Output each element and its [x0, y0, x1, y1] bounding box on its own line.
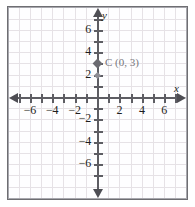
x-axis-tick — [108, 94, 110, 103]
y-axis-tick — [94, 142, 103, 144]
x-axis-tick — [30, 94, 32, 103]
x-tick-label: 6 — [153, 103, 175, 118]
y-axis-line — [97, 10, 99, 196]
point-label-c: C (0, 3) — [105, 56, 139, 68]
x-axis-tick — [75, 94, 77, 103]
x-axis-tick — [63, 94, 65, 103]
y-tick-label: 2 — [67, 67, 91, 82]
y-axis-tick — [94, 108, 103, 110]
y-axis-tick — [94, 153, 103, 155]
x-tick-label: −4 — [41, 103, 63, 118]
y-axis-label: y — [102, 9, 107, 21]
y-tick-label: −4 — [67, 134, 91, 149]
y-axis-tick — [94, 86, 103, 88]
y-tick-label: 6 — [67, 22, 91, 37]
x-axis-tick — [164, 94, 166, 103]
x-axis-tick — [119, 94, 121, 103]
x-tick-label: 2 — [108, 103, 130, 118]
y-axis-tick — [94, 131, 103, 133]
y-tick-label: −6 — [67, 156, 91, 171]
x-axis-arrow-left — [9, 93, 18, 103]
y-tick-label: 4 — [67, 44, 91, 59]
x-tick-label: −6 — [19, 103, 41, 118]
x-axis-tick — [131, 94, 133, 103]
x-axis-tick — [41, 94, 43, 103]
x-axis-tick — [19, 94, 21, 103]
y-axis-tick — [94, 41, 103, 43]
x-tick-label: 4 — [131, 103, 153, 118]
x-axis-tick — [52, 94, 54, 103]
y-axis-tick — [94, 30, 103, 32]
x-axis-label: x — [174, 82, 179, 94]
x-axis-tick — [86, 94, 88, 103]
x-axis-tick — [142, 94, 144, 103]
coordinate-plane-figure: −6−4−2246642−2−4−6yxC (0, 3) — [0, 0, 195, 207]
y-axis-arrow-down — [93, 189, 103, 198]
x-axis-arrow-right — [177, 93, 186, 103]
y-axis-tick — [94, 175, 103, 177]
y-tick-label: −2 — [67, 111, 91, 126]
x-axis-tick — [153, 94, 155, 103]
y-axis-tick — [94, 52, 103, 54]
y-axis-tick — [94, 164, 103, 166]
y-axis-tick — [94, 119, 103, 121]
